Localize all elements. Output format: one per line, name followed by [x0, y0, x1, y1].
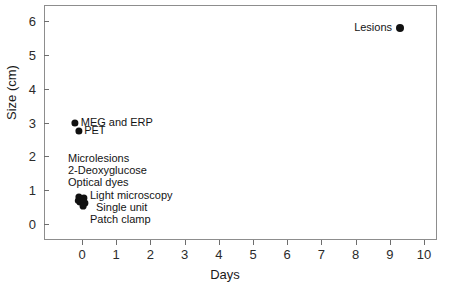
- x-tick-label: 2: [147, 248, 154, 261]
- x-tick-mark: [82, 240, 83, 245]
- x-tick-mark: [253, 240, 254, 245]
- y-tick-label: 0: [29, 218, 36, 231]
- x-tick-mark: [185, 240, 186, 245]
- x-tick-label: 8: [352, 248, 359, 261]
- x-tick-mark: [424, 240, 425, 245]
- y-tick-mark: [44, 89, 49, 90]
- scatter-chart: 0123456 012345678910 LesionsMEG and ERPP…: [0, 0, 450, 291]
- data-point: [396, 24, 404, 32]
- point-label: Single unit: [96, 202, 147, 213]
- y-tick-mark: [44, 156, 49, 157]
- y-tick-mark: [44, 190, 49, 191]
- x-tick-mark: [287, 240, 288, 245]
- x-tick-mark: [116, 240, 117, 245]
- y-axis-label: Size (cm): [4, 38, 19, 148]
- x-tick-mark: [219, 240, 220, 245]
- point-label: Patch clamp: [90, 214, 151, 225]
- y-tick-label: 2: [29, 150, 36, 163]
- x-tick-mark: [321, 240, 322, 245]
- x-tick-label: 9: [386, 248, 393, 261]
- y-tick-label: 3: [29, 116, 36, 129]
- point-label: Lesions: [354, 22, 392, 33]
- y-tick-mark: [44, 123, 49, 124]
- data-point: [80, 203, 87, 210]
- x-tick-label: 10: [417, 248, 431, 261]
- x-axis-label: Days: [0, 267, 450, 282]
- x-tick-label: 1: [113, 248, 120, 261]
- point-label: 2-Deoxyglucose: [68, 165, 147, 176]
- y-tick-mark: [44, 21, 49, 22]
- y-tick-label: 5: [29, 49, 36, 62]
- y-tick-label: 1: [29, 184, 36, 197]
- x-tick-mark: [356, 240, 357, 245]
- x-tick-mark: [150, 240, 151, 245]
- point-label: Optical dyes: [68, 177, 129, 188]
- point-label: Light microscopy: [90, 190, 173, 201]
- y-tick-label: 4: [29, 82, 36, 95]
- x-tick-label: 5: [249, 248, 256, 261]
- x-tick-label: 3: [181, 248, 188, 261]
- y-tick-label: 6: [29, 15, 36, 28]
- y-tick-mark: [44, 55, 49, 56]
- x-tick-label: 4: [215, 248, 222, 261]
- x-tick-label: 6: [284, 248, 291, 261]
- point-label: Microlesions: [68, 153, 129, 164]
- y-tick-mark: [44, 224, 49, 225]
- x-tick-label: 7: [318, 248, 325, 261]
- x-tick-mark: [390, 240, 391, 245]
- point-label: PET: [84, 125, 105, 136]
- x-tick-label: 0: [78, 248, 85, 261]
